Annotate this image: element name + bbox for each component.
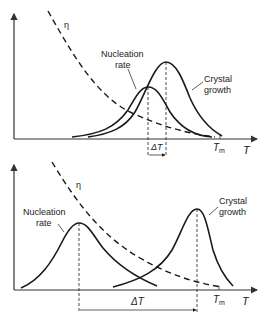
- tm-label-bottom: Tm: [213, 294, 225, 306]
- growth-leader-top: [192, 82, 203, 90]
- nucleation-label-bottom-line1: Nucleation: [23, 207, 66, 217]
- growth-label-bottom-line1: Crystal: [219, 196, 247, 206]
- viscosity-label-top: η: [64, 20, 69, 30]
- growth-label-top-line1: Crystal: [204, 74, 232, 84]
- nucleation-label-top-line2: rate: [115, 60, 131, 70]
- top-panel: η Nucleation rate Crystal growth ΔT Tm T: [14, 11, 257, 156]
- x-axis-label-top: T: [243, 144, 251, 156]
- tm-label-top: Tm: [213, 142, 225, 154]
- viscosity-label-bottom: η: [76, 180, 81, 190]
- nucleation-leader-bottom: [58, 224, 64, 232]
- growth-leader-bottom: [209, 207, 218, 215]
- x-axis-label-bottom: T: [242, 295, 250, 307]
- nucleation-leader-top: [128, 69, 136, 89]
- growth-curve-top: [88, 62, 222, 137]
- delta-t-label-top: ΔT: [150, 142, 164, 152]
- growth-curve-bottom: [113, 209, 233, 287]
- growth-label-top-line2: growth: [204, 85, 231, 95]
- bottom-panel: η Nucleation rate Crystal growth ΔT Tm T: [14, 162, 257, 313]
- nucleation-curve-top: [72, 87, 212, 137]
- delta-t-label-bottom: ΔT: [130, 296, 145, 307]
- nucleation-label-top-line1: Nucleation: [101, 49, 144, 59]
- growth-label-bottom-line2: growth: [219, 207, 246, 217]
- nucleation-label-bottom-line2: rate: [36, 218, 52, 228]
- diagram-canvas: η Nucleation rate Crystal growth ΔT Tm T…: [0, 0, 266, 321]
- nucleation-curve-bottom: [21, 223, 157, 288]
